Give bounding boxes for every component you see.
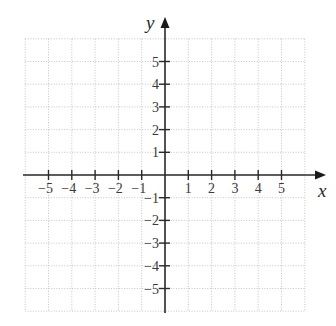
y-tick-label: 5 <box>152 55 159 70</box>
x-tick-label: −2 <box>108 181 123 196</box>
y-tick-label: 1 <box>152 145 159 160</box>
x-ticks: −5−4−3−2−112345 <box>38 170 285 196</box>
x-tick-label: 5 <box>278 181 285 196</box>
y-tick-label: 3 <box>152 100 159 115</box>
y-tick-label: −1 <box>144 191 159 206</box>
y-tick-label: −4 <box>144 259 159 274</box>
x-axis-arrow-icon <box>315 171 326 180</box>
x-tick-label: 3 <box>231 181 238 196</box>
x-tick-label: −3 <box>85 181 100 196</box>
y-tick-label: 2 <box>152 123 159 138</box>
coordinate-plane: −5−4−3−2−112345 54321−1−2−3−4−5 x y <box>0 0 336 326</box>
y-tick-label: −2 <box>144 213 159 228</box>
x-tick-label: 4 <box>255 181 262 196</box>
x-tick-label: −4 <box>61 181 76 196</box>
y-tick-label: −5 <box>144 282 159 297</box>
y-tick-label: 4 <box>152 77 159 92</box>
y-axis-arrow-icon <box>161 17 170 28</box>
x-tick-label: 2 <box>208 181 215 196</box>
x-tick-label: −5 <box>38 181 53 196</box>
x-tick-label: 1 <box>185 181 192 196</box>
y-axis-label: y <box>144 12 155 33</box>
y-tick-label: −3 <box>144 236 159 251</box>
x-axis-label: x <box>317 180 327 201</box>
